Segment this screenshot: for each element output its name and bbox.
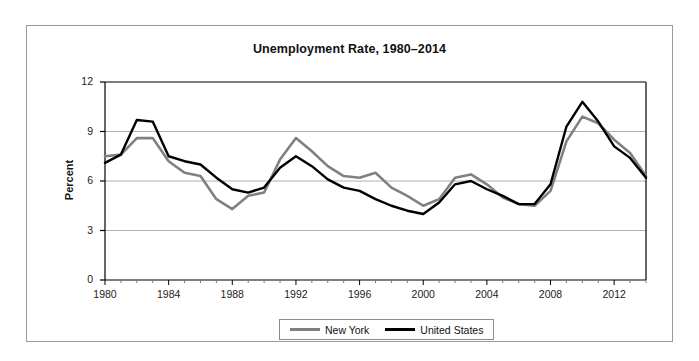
x-tick-label: 2012 xyxy=(594,288,634,300)
x-tick-label: 2000 xyxy=(403,288,443,300)
x-tick-label: 1988 xyxy=(212,288,252,300)
x-tick-label: 1992 xyxy=(276,288,316,300)
y-tick-label: 6 xyxy=(71,174,93,186)
y-tick-label: 3 xyxy=(71,224,93,236)
x-tick-label: 1980 xyxy=(85,288,125,300)
chart-legend: New York United States xyxy=(279,319,494,340)
legend-item-united-states: United States xyxy=(385,324,483,336)
legend-item-new-york: New York xyxy=(290,324,369,336)
x-tick-label: 2008 xyxy=(531,288,571,300)
chart-frame: Unemployment Rate, 1980–2014 Percent New… xyxy=(26,25,673,342)
legend-label-new-york: New York xyxy=(325,324,369,336)
x-tick-label: 2004 xyxy=(467,288,507,300)
legend-swatch-new-york xyxy=(290,328,320,331)
legend-swatch-united-states xyxy=(385,328,415,332)
legend-label-united-states: United States xyxy=(420,324,483,336)
y-tick-label: 9 xyxy=(71,125,93,137)
y-tick-label: 12 xyxy=(71,75,93,87)
series-line-united-states xyxy=(105,102,646,214)
x-tick-label: 1996 xyxy=(340,288,380,300)
x-tick-label: 1984 xyxy=(149,288,189,300)
y-tick-label: 0 xyxy=(71,273,93,285)
